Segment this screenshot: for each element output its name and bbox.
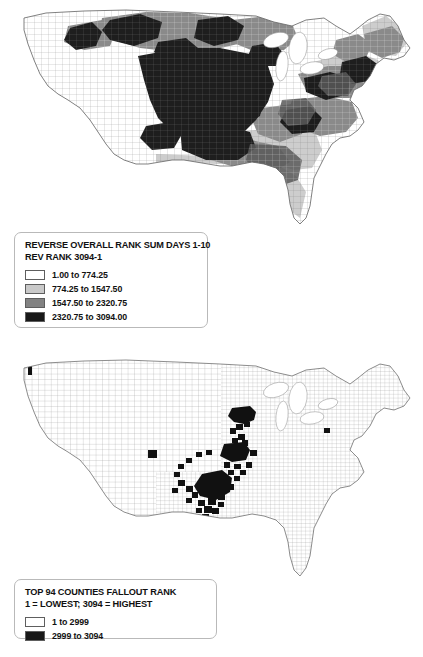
legend-swatch-class-2 — [25, 284, 45, 294]
legend-label-class-1: 1 to 2999 — [52, 617, 89, 627]
legend-reverse-overall-rank: REVERSE OVERALL RANK SUM DAYS 1-10 REV R… — [14, 232, 208, 328]
top-94-counties-fallout-rank-map — [6, 352, 417, 584]
legend-title-line-2: REV RANK 3094-1 — [25, 252, 197, 264]
legend-label-class-3: 1547.50 to 2320.75 — [52, 298, 127, 308]
legend-label-class-2: 2999 to 3094 — [52, 631, 103, 641]
legend-label-class-2: 774.25 to 1547.50 — [52, 284, 122, 294]
legend-title-line-1: TOP 94 COUNTIES FALLOUT RANK — [25, 587, 206, 599]
legend-swatch-class-1 — [25, 270, 45, 280]
map-body — [6, 352, 417, 584]
legend-row: 774.25 to 1547.50 — [25, 282, 197, 295]
legend-items: 1 to 2999 2999 to 3094 — [25, 615, 206, 642]
figure-container: REVERSE OVERALL RANK SUM DAYS 1-10 REV R… — [0, 0, 423, 657]
legend-row: 2320.75 to 3094.00 — [25, 310, 197, 323]
us-county-choropleth-top — [6, 4, 417, 228]
legend-swatch-class-2 — [25, 631, 45, 641]
legend-items: 1.00 to 774.25 774.25 to 1547.50 1547.50… — [25, 268, 197, 323]
legend-row: 2999 to 3094 — [25, 629, 206, 642]
legend-label-class-1: 1.00 to 774.25 — [52, 270, 108, 280]
us-county-choropleth-bottom — [6, 352, 417, 584]
legend-title-line-2: 1 = LOWEST; 3094 = HIGHEST — [25, 599, 206, 611]
legend-row: 1547.50 to 2320.75 — [25, 296, 197, 309]
legend-row: 1.00 to 774.25 — [25, 268, 197, 281]
legend-swatch-class-4 — [25, 312, 45, 322]
legend-swatch-class-1 — [25, 617, 45, 627]
legend-title-line-1: REVERSE OVERALL RANK SUM DAYS 1-10 — [25, 240, 197, 252]
reverse-overall-rank-sum-map — [6, 4, 417, 228]
legend-row: 1 to 2999 — [25, 615, 206, 628]
legend-swatch-class-3 — [25, 298, 45, 308]
map-body — [6, 4, 417, 228]
legend-label-class-4: 2320.75 to 3094.00 — [52, 312, 127, 322]
legend-top-94-counties: TOP 94 COUNTIES FALLOUT RANK 1 = LOWEST;… — [14, 579, 217, 639]
